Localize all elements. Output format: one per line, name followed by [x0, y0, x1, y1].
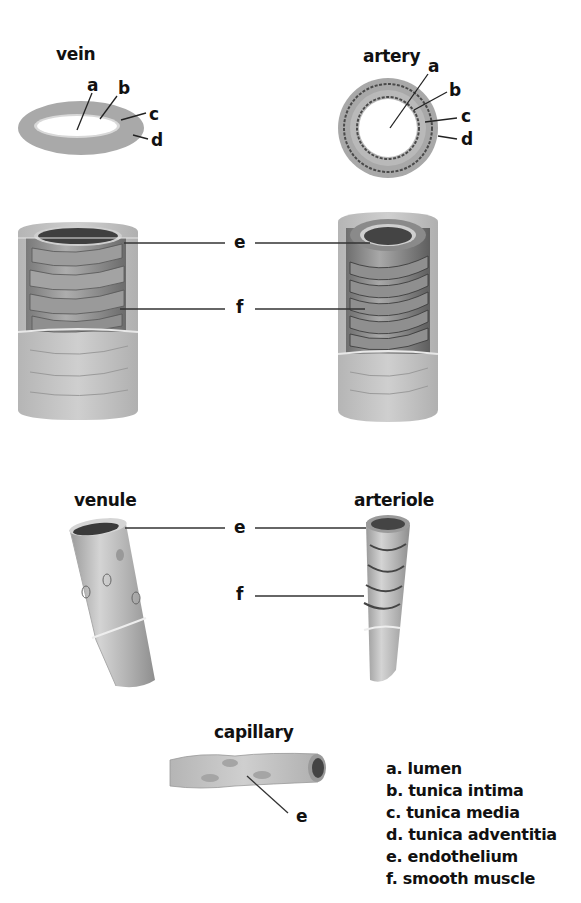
- artery-label-b: b: [449, 82, 461, 99]
- callout-lines-top: [120, 243, 370, 309]
- legend-item-smooth-muscle: f. smooth muscle: [386, 868, 557, 890]
- title-venule: venule: [74, 492, 136, 509]
- vein-label-a: a: [87, 77, 98, 94]
- artery-label-d: d: [461, 131, 473, 148]
- vein-longitudinal: [18, 222, 138, 420]
- label-f-top: f: [236, 299, 243, 316]
- capillary-illustration: [170, 753, 326, 813]
- artery-label-c: c: [461, 108, 471, 125]
- artery-cross-section: [338, 74, 457, 178]
- label-f-middle: f: [236, 586, 243, 603]
- title-vein: vein: [56, 46, 95, 63]
- label-e-capillary: e: [296, 808, 307, 825]
- title-capillary: capillary: [214, 724, 293, 741]
- title-artery: artery: [363, 48, 420, 65]
- label-e-top: e: [234, 234, 245, 251]
- legend-item-tunica-media: c. tunica media: [386, 802, 557, 824]
- label-e-middle: e: [234, 519, 245, 536]
- legend-item-endothelium: e. endothelium: [386, 846, 557, 868]
- artery-label-a: a: [428, 58, 439, 75]
- legend-item-lumen: a. lumen: [386, 758, 557, 780]
- vein-label-d: d: [151, 132, 163, 149]
- arteriole-illustration: [364, 515, 410, 682]
- legend-item-tunica-adventitia: d. tunica adventitia: [386, 824, 557, 846]
- vein-label-c: c: [149, 106, 159, 123]
- vein-label-b: b: [118, 80, 130, 97]
- vein-cross-section: [18, 93, 148, 155]
- legend: a. lumen b. tunica intima c. tunica medi…: [386, 758, 557, 890]
- callout-lines-middle: [125, 528, 366, 596]
- venule-illustration: [68, 515, 155, 687]
- legend-item-tunica-intima: b. tunica intima: [386, 780, 557, 802]
- title-arteriole: arteriole: [354, 492, 434, 509]
